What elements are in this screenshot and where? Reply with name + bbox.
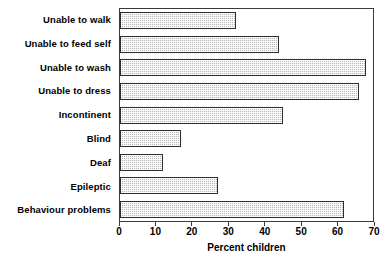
bar-row bbox=[120, 33, 373, 57]
bar-row bbox=[120, 150, 373, 174]
bar bbox=[120, 177, 218, 194]
bars-area bbox=[120, 9, 373, 221]
x-axis-tick-labels: 010203040506070 bbox=[119, 227, 374, 241]
category-label: Deaf bbox=[0, 151, 115, 175]
tick-label: 60 bbox=[332, 227, 343, 237]
category-label: Behaviour problems bbox=[0, 198, 115, 222]
x-axis-title: Percent children bbox=[119, 243, 374, 253]
tick-label: 10 bbox=[150, 227, 161, 237]
bar-row bbox=[120, 103, 373, 127]
category-label: Unable to wash bbox=[0, 56, 115, 80]
bar bbox=[120, 107, 283, 124]
category-label: Unable to walk bbox=[0, 8, 115, 32]
bar bbox=[120, 83, 359, 100]
bar bbox=[120, 201, 344, 218]
category-axis-labels: Unable to walkUnable to feed selfUnable … bbox=[0, 8, 115, 222]
category-label: Unable to dress bbox=[0, 79, 115, 103]
bar bbox=[120, 36, 279, 53]
bar bbox=[120, 154, 163, 171]
category-label: Unable to feed self bbox=[0, 32, 115, 56]
bar-row bbox=[120, 198, 373, 222]
tick-label: 70 bbox=[368, 227, 379, 237]
bar bbox=[120, 59, 366, 76]
bar-row bbox=[120, 56, 373, 80]
category-label: Epileptic bbox=[0, 174, 115, 198]
bar bbox=[120, 130, 181, 147]
bar-row bbox=[120, 174, 373, 198]
plot-frame bbox=[119, 8, 374, 222]
tick-label: 50 bbox=[296, 227, 307, 237]
bar-chart: Unable to walkUnable to feed selfUnable … bbox=[0, 0, 386, 262]
bar-row bbox=[120, 80, 373, 104]
tick-label: 30 bbox=[223, 227, 234, 237]
bar-row bbox=[120, 9, 373, 33]
bar-row bbox=[120, 127, 373, 151]
tick-label: 0 bbox=[116, 227, 122, 237]
category-label: Incontinent bbox=[0, 103, 115, 127]
bar bbox=[120, 12, 236, 29]
tick-label: 40 bbox=[259, 227, 270, 237]
tick-label: 20 bbox=[186, 227, 197, 237]
category-label: Blind bbox=[0, 127, 115, 151]
